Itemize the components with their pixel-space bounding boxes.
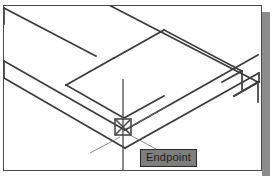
drawing-canvas-frame[interactable]: Endpoint [3,5,262,171]
tracking-line-lower-left [90,137,120,153]
window-drop-shadow-right [262,12,270,176]
slab-front-bottom-edge [4,78,125,148]
slab-top-back-edge [4,8,96,56]
tracking-line-upper-right [128,106,168,128]
upper-bar-inner-top [164,30,242,71]
cad-drawing-canvas[interactable] [4,6,261,170]
notch-right-leg [124,96,164,118]
notch-left-edge [66,58,114,85]
slab-bottom-right-edge [125,73,259,148]
upper-bar-top-face [107,6,258,82]
slab-front-top-edge [4,61,125,130]
cad-screenshot-root: Endpoint [0,0,275,182]
upper-bar-inner-left [114,30,164,58]
endpoint-osnap-tooltip: Endpoint [140,149,197,167]
